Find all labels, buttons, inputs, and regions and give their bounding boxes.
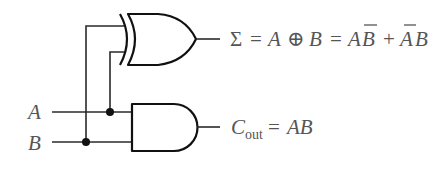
sum-expr-a: A — [266, 27, 281, 51]
sigma-symbol: Σ — [230, 27, 242, 51]
carry-subscript: out — [245, 127, 263, 142]
b-to-xor-wire — [86, 26, 124, 142]
sum-equals-1: = — [250, 27, 262, 51]
sum-expression: Σ = A ⊕ B = A B + A B — [230, 25, 428, 51]
carry-expr: AB — [285, 115, 313, 139]
xor-gate — [120, 14, 196, 65]
input-b-label: B — [28, 131, 41, 155]
term1-a: A — [346, 27, 361, 51]
carry-expression: C out = AB — [231, 115, 313, 142]
xor-back-curve — [120, 14, 127, 65]
and-body — [132, 104, 197, 151]
sum-equals-2: = — [330, 27, 342, 51]
xor-body — [128, 14, 196, 65]
sum-expr-b: B — [309, 27, 322, 51]
xor-operator: ⊕ — [287, 27, 305, 51]
and-gate — [132, 104, 197, 151]
junction-dot-b — [82, 138, 90, 146]
carry-equals: = — [268, 115, 280, 139]
half-adder-diagram: A B Σ = A ⊕ B = A B + A B C out = AB — [0, 0, 444, 170]
junction-dot-a — [106, 108, 114, 116]
plus-operator: + — [383, 27, 395, 51]
input-wires — [52, 26, 133, 142]
input-a-label: A — [26, 100, 41, 124]
term2-a-bar: A — [398, 27, 413, 51]
carry-symbol: C — [231, 115, 246, 139]
term1-b-bar: B — [362, 27, 375, 51]
term2-b: B — [415, 27, 428, 51]
